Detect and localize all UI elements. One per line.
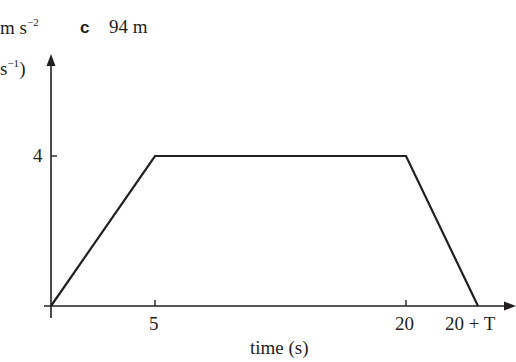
x-tick-label-20-plus-t: 20 + T (445, 314, 495, 333)
y-tick-label-4: 4 (33, 146, 43, 165)
x-axis-label: time (s) (250, 338, 309, 357)
velocity-line (51, 156, 478, 306)
x-tick-label-text: 20 + T (445, 313, 495, 334)
x-axis-arrow-icon (504, 302, 516, 311)
x-tick-label-20: 20 (395, 314, 414, 333)
velocity-time-graph (0, 0, 516, 362)
y-axis-arrow-icon (47, 54, 56, 66)
x-tick-label-5: 5 (149, 314, 159, 333)
